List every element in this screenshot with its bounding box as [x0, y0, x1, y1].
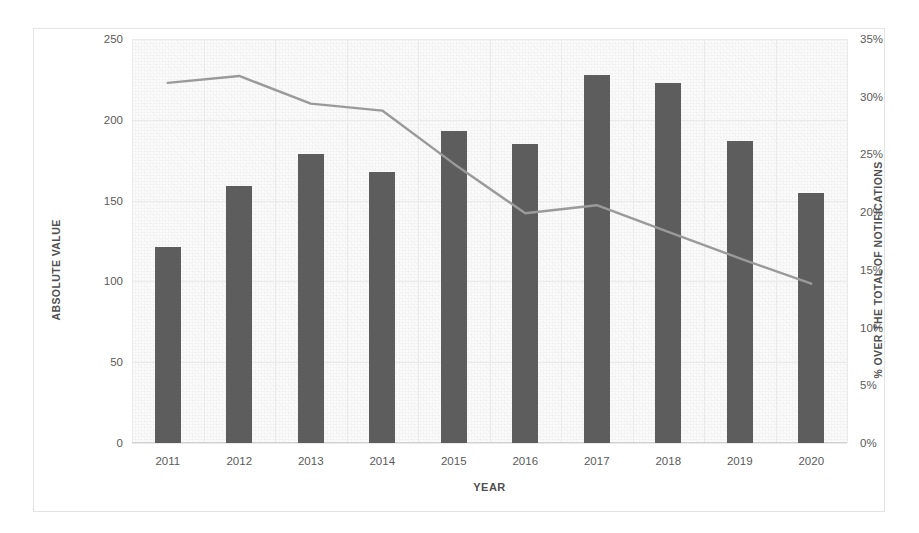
x-tick-2015: 2015: [441, 455, 467, 467]
y-tick-left-0: 0: [117, 437, 132, 449]
y-tick-right-5pct: 5%: [847, 379, 877, 391]
bar-2012[interactable]: [226, 186, 252, 443]
y-axis-left-title: ABSOLUTE VALUE: [50, 219, 62, 320]
x-tick-2014: 2014: [369, 455, 395, 467]
y-tick-right-25pct: 25%: [847, 148, 883, 160]
y-tick-right-35pct: 35%: [847, 33, 883, 45]
x-tick-2011: 2011: [155, 455, 180, 467]
y-tick-right-20pct: 20%: [847, 206, 883, 218]
bar-2017[interactable]: [584, 75, 610, 443]
x-tick-2012: 2012: [226, 455, 252, 467]
bar-2016[interactable]: [512, 144, 538, 443]
y-tick-right-0pct: 0%: [847, 437, 877, 449]
gridline-vertical: [347, 39, 348, 443]
y-tick-left-100: 100: [104, 275, 132, 287]
x-axis-title: YEAR: [132, 481, 847, 493]
bar-2020[interactable]: [798, 193, 824, 443]
gridline-vertical: [490, 39, 491, 443]
bar-2018[interactable]: [655, 83, 681, 443]
gridline-vertical: [204, 39, 205, 443]
y-tick-right-30pct: 30%: [847, 91, 883, 103]
x-tick-2018: 2018: [655, 455, 681, 467]
x-tick-2017: 2017: [584, 455, 610, 467]
bar-2015[interactable]: [441, 131, 467, 443]
gridline-horizontal: [132, 443, 847, 444]
x-tick-2020: 2020: [798, 455, 824, 467]
bar-2011[interactable]: [155, 247, 181, 443]
bar-2014[interactable]: [369, 172, 395, 443]
x-tick-2013: 2013: [298, 455, 324, 467]
gridline-vertical: [132, 39, 133, 443]
y-tick-right-15pct: 15%: [847, 264, 883, 276]
gridline-vertical: [633, 39, 634, 443]
gridline-vertical: [776, 39, 777, 443]
bar-2013[interactable]: [298, 154, 324, 443]
y-tick-right-10pct: 10%: [847, 322, 883, 334]
gridline-vertical: [704, 39, 705, 443]
y-tick-left-150: 150: [104, 195, 132, 207]
y-tick-left-50: 50: [110, 356, 132, 368]
gridline-vertical: [275, 39, 276, 443]
x-tick-2019: 2019: [727, 455, 753, 467]
gridline-vertical: [418, 39, 419, 443]
y-tick-left-200: 200: [104, 114, 132, 126]
x-tick-2016: 2016: [512, 455, 538, 467]
gridline-vertical: [561, 39, 562, 443]
plot-area: 050100150200250 0%5%10%15%20%25%30%35% 2…: [132, 39, 847, 443]
chart-figure: ABSOLUTE VALUE % OVER THE TOTAL OF NOTIF…: [33, 28, 885, 512]
y-tick-left-250: 250: [104, 33, 132, 45]
bar-2019[interactable]: [727, 141, 753, 443]
